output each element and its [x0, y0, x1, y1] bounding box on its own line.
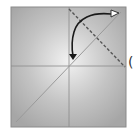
reflection-diagram: [0, 0, 135, 136]
side-text: (: [128, 55, 133, 69]
